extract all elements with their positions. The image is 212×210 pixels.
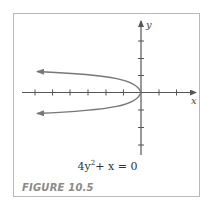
figure-caption: FIGURE 10.5 <box>22 182 94 193</box>
plot-area: y x <box>0 0 212 210</box>
equation-coef: 4y <box>78 160 91 173</box>
equation-label: 4y2+ x = 0 <box>60 159 155 173</box>
equation-rest: + x = 0 <box>95 160 137 173</box>
x-axis-label: x <box>191 95 197 106</box>
parabola-lower-branch <box>37 93 141 114</box>
parabola-upper-branch <box>37 72 141 93</box>
y-axis-label: y <box>145 19 152 30</box>
